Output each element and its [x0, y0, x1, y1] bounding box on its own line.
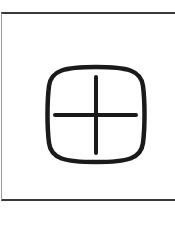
plus-in-rounded-square-icon [45, 64, 147, 165]
add-plus-icon[interactable] [45, 64, 147, 165]
